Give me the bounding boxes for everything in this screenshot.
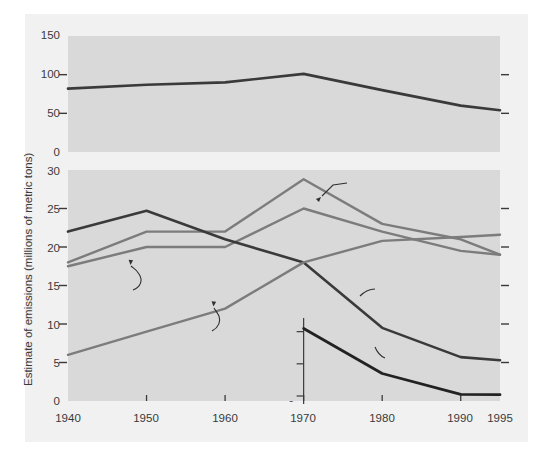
chart-figure: Estimate of emissions (millions of metri… — [0, 0, 549, 456]
bottom-plot-area — [68, 170, 500, 401]
plot-canvas — [0, 0, 549, 456]
top-plot-area — [68, 36, 500, 152]
